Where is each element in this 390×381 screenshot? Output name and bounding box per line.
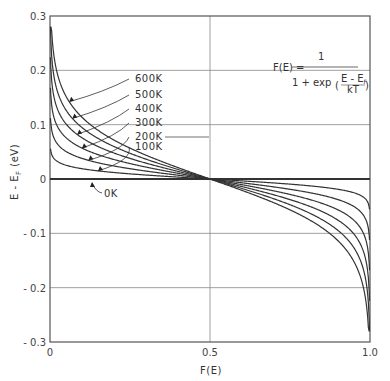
y-tick-label: - 0.2 <box>23 283 46 294</box>
svg-text:kT: kT <box>347 84 360 95</box>
y-tick-label: - 0.3 <box>23 337 46 348</box>
y-tick-label: 0.1 <box>30 120 46 131</box>
x-tick-label: 0 <box>47 347 53 358</box>
fermi-dirac-chart: 0.30.20.10- 0.1- 0.2- 0.3 00.51.0 100K20… <box>0 0 390 381</box>
svg-text:1: 1 <box>318 51 324 62</box>
temperature-annotations: 100K200K300K400K500K600K0K <box>69 73 209 199</box>
label-500K: 500K <box>135 89 163 100</box>
x-axis-label: F(E) <box>200 365 222 376</box>
label-100K: 100K <box>135 141 163 152</box>
svg-text:1 + exp: 1 + exp <box>292 77 331 88</box>
x-tick-label: 1.0 <box>362 347 378 358</box>
label-300K: 300K <box>135 117 163 128</box>
x-tick-label: 0.5 <box>202 347 218 358</box>
x-axis-ticks: 00.51.0 <box>47 347 378 358</box>
label-600K: 600K <box>135 73 163 84</box>
label-400K: 400K <box>135 103 163 114</box>
svg-text:E - EF (eV): E - EF (eV) <box>9 144 23 200</box>
y-tick-label: 0 <box>40 174 46 185</box>
y-tick-label: - 0.1 <box>23 228 46 239</box>
y-axis-ticks: 0.30.20.10- 0.1- 0.2- 0.3 <box>23 11 46 348</box>
svg-text:(: ( <box>335 80 339 91</box>
label-200K: 200K <box>135 131 163 142</box>
y-axis-label: E - EF (eV) <box>9 144 23 200</box>
label-0K: 0K <box>104 188 118 199</box>
svg-text:): ) <box>365 80 369 91</box>
svg-text:F(E) =: F(E) = <box>273 62 304 73</box>
y-tick-label: 0.2 <box>30 65 46 76</box>
fermi-formula: F(E) = 1 1 + exp ( E - EF kT ) <box>273 51 369 95</box>
y-tick-label: 0.3 <box>30 11 46 22</box>
